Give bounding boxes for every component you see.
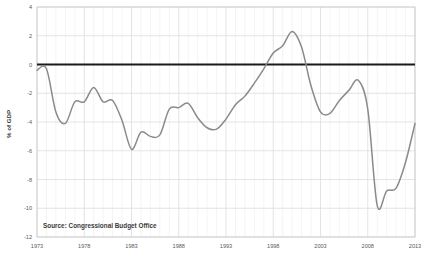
y-tick-label: -10 <box>24 205 32 211</box>
source-note: Source: Congressional Budget Office <box>43 222 157 230</box>
x-tick-label: 1993 <box>220 243 232 249</box>
x-tick-label: 2013 <box>409 243 421 249</box>
x-tick-label: 1988 <box>173 243 185 249</box>
x-tick-label: 2003 <box>314 243 326 249</box>
y-tick-label: -8 <box>27 177 32 183</box>
x-tick-label: 1998 <box>267 243 279 249</box>
y-tick-label: -4 <box>27 119 32 125</box>
y-tick-label: -6 <box>27 148 32 154</box>
x-tick-label: 1973 <box>31 243 43 249</box>
y-tick-label: -2 <box>27 90 32 96</box>
x-tick-label: 1978 <box>78 243 90 249</box>
x-axis-tick-labels: 197319781983198819931998200320082013 <box>31 243 421 249</box>
x-tick-label: 2008 <box>362 243 374 249</box>
y-tick-label: 2 <box>29 33 32 39</box>
y-axis-title: % of GDP <box>5 110 12 138</box>
y-tick-label: 4 <box>29 4 32 10</box>
y-tick-label: -12 <box>24 234 32 240</box>
deficit-line-chart: 420-2-4-6-8-10-12 1973197819831988199319… <box>0 0 434 265</box>
y-tick-label: 0 <box>29 62 32 68</box>
x-tick-label: 1983 <box>125 243 137 249</box>
chart-container: 420-2-4-6-8-10-12 1973197819831988199319… <box>0 0 434 265</box>
